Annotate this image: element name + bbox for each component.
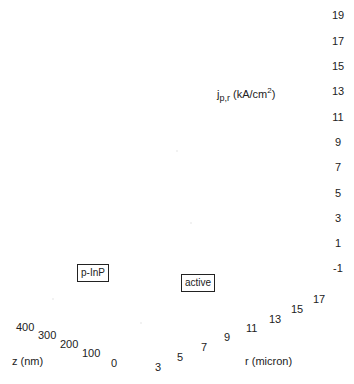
jpr-tick: 13	[328, 85, 348, 97]
z-nm-tick: 400	[16, 321, 34, 333]
r-tick: 13	[269, 313, 281, 325]
r-tick: 17	[313, 293, 325, 305]
jpr-label-close: )	[272, 88, 276, 100]
r-tick: 9	[224, 331, 230, 343]
artifact-dot	[176, 150, 178, 152]
artifact-dot	[52, 298, 54, 300]
artifact-dot	[140, 322, 142, 324]
jpr-tick: 7	[328, 161, 348, 173]
jpr-label-units: (kA/cm	[230, 88, 267, 100]
jpr-tick: 15	[328, 60, 348, 72]
jpr-tick: 17	[328, 35, 348, 47]
r-tick: 5	[177, 351, 183, 363]
jpr-tick: 11	[328, 111, 348, 123]
jpr-tick: 9	[328, 136, 348, 148]
r-tick: 11	[246, 322, 257, 334]
jpr-tick: 1	[328, 237, 348, 249]
artifact-dot	[190, 222, 192, 224]
z-nm-axis-label: z (nm)	[12, 355, 43, 367]
annotation-active: active	[181, 274, 215, 292]
annotation-pinp: p-InP	[77, 264, 109, 282]
jpr-tick: 3	[328, 212, 348, 224]
r-tick: 7	[201, 341, 207, 353]
jpr-label-sub: p,r	[219, 93, 230, 103]
z-nm-tick: 100	[82, 347, 100, 359]
jpr-axis-label: jp,r (kA/cm2)	[217, 85, 275, 104]
r-tick: 15	[291, 303, 303, 315]
r-axis-label: r (micron)	[245, 355, 292, 367]
z-nm-tick: 200	[60, 338, 78, 350]
jpr-tick: -1	[328, 262, 348, 274]
jpr-tick: 5	[328, 187, 348, 199]
z-nm-tick: 0	[111, 357, 117, 369]
jpr-tick: 19	[328, 9, 348, 21]
z-nm-tick: 300	[38, 329, 56, 341]
r-tick: 3	[155, 361, 161, 373]
